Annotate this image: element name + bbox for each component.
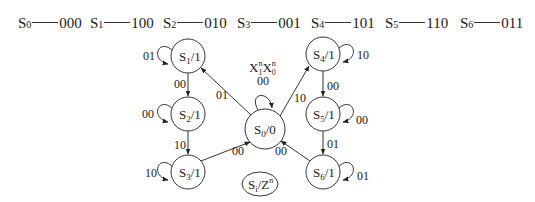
label-s1-s2: 00: [174, 77, 186, 91]
state-s5-label: S5/1: [313, 107, 335, 124]
loop-s1: [158, 46, 172, 64]
state-s0-label: S0/0: [254, 122, 276, 139]
loop-s2: [158, 104, 172, 122]
label-s4-self: 10: [357, 48, 369, 62]
state-s3-label: S3/1: [179, 165, 201, 182]
label-s6-s0: 00: [275, 144, 287, 158]
loop-s6: [339, 162, 353, 180]
label-s1-self: 01: [143, 49, 155, 63]
state-s1-label: S1/1: [179, 49, 201, 66]
legend-label: Si/Zn: [248, 176, 273, 194]
label-s3-self: 10: [145, 166, 157, 180]
label-s0-s4: 10: [294, 91, 306, 105]
label-s3-s0: 00: [232, 144, 244, 158]
loop-s0: [255, 95, 272, 110]
label-s2-s3: 10: [174, 138, 186, 152]
state-diagram: S1/1 S2/1 S3/1 S0/0 S4/1 S5/1 S6/1 Si/Zn…: [0, 0, 535, 202]
loop-s3: [158, 162, 172, 180]
state-s4-label: S4/1: [313, 47, 335, 64]
state-s6-label: S6/1: [313, 165, 335, 182]
loop-s4: [339, 44, 353, 62]
label-s0-s1: 01: [216, 88, 228, 102]
label-s2-self: 00: [142, 107, 154, 121]
label-s5-s6: 01: [327, 137, 339, 151]
label-s0-self: 00: [257, 74, 269, 88]
label-s5-self: 00: [356, 113, 368, 127]
label-s4-s5: 00: [327, 79, 339, 93]
state-s2-label: S2/1: [179, 107, 201, 124]
loop-s5: [339, 104, 353, 122]
label-s6-self: 01: [357, 169, 369, 183]
